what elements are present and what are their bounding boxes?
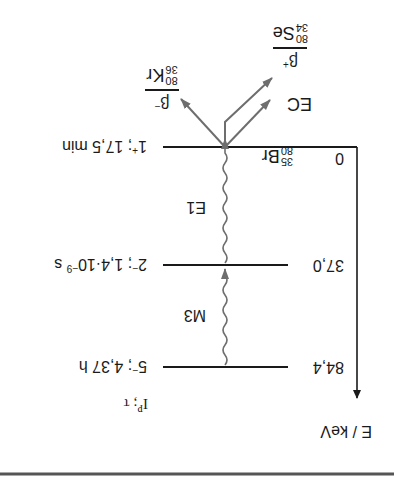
ec-arrow	[225, 100, 270, 147]
column-header: IP; τ	[123, 396, 148, 413]
level-label-37: 2−; 1,4·10−9 s	[54, 256, 147, 273]
transition-label-e1: E1	[186, 199, 206, 215]
beta-plus-arrow	[225, 78, 272, 147]
beta-minus-arrow	[181, 99, 225, 147]
level-label-84: 5−; 4,37 h	[79, 358, 147, 375]
beta-plus-se-label: β+ 8034Se	[273, 22, 308, 73]
gamma-e1-wiggle	[223, 139, 227, 263]
energy-label-84: 84,4	[313, 359, 344, 375]
ec-label: EC	[287, 95, 312, 113]
beta-minus-kr-label: β− 8036Kr	[145, 64, 179, 115]
gamma-m3-wiggle	[223, 269, 227, 365]
decay-scheme-diagram: E / keV IP; τ 84,4 37,0 0 5−; 4,37 h 2−;…	[0, 0, 394, 477]
energy-label-0: 0	[335, 150, 344, 166]
transition-label-m3: M3	[184, 307, 206, 323]
parent-nucleus: 3580Br	[262, 145, 293, 167]
axis-label: E / keV	[320, 423, 372, 439]
energy-label-37: 37,0	[313, 257, 344, 273]
diagram-graphics	[0, 0, 394, 477]
header-base: I	[143, 396, 148, 412]
level-label-0: 1+; 17,5 min	[62, 138, 147, 155]
header-rest: ; τ	[123, 396, 137, 412]
header-sup: P	[137, 403, 143, 414]
